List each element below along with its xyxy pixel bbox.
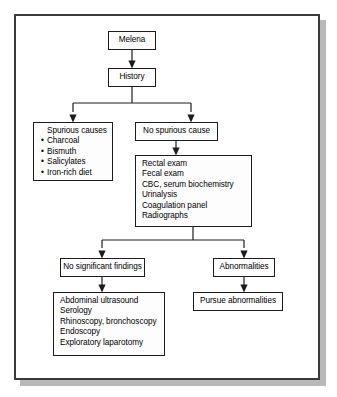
node-diagnostic-workup-item: Fecal exam xyxy=(142,169,246,179)
node-advanced-diagnostics-item: Rhinoscopy, bronchoscopy xyxy=(60,317,159,327)
node-no-spurious-cause-label: No spurious cause xyxy=(143,126,210,136)
node-diagnostic-workup-item: Radiographs xyxy=(142,211,246,221)
node-pursue-abnormalities-label: Pursue abnormalities xyxy=(200,296,276,306)
node-history-label: History xyxy=(119,72,144,82)
node-pursue-abnormalities[interactable]: Pursue abnormalities xyxy=(193,292,283,311)
node-spurious-causes-item: Salicylates xyxy=(40,157,107,167)
node-spurious-causes[interactable]: Spurious causes Charcoal Bismuth Salicyl… xyxy=(33,122,113,181)
node-spurious-causes-item: Charcoal xyxy=(40,136,107,146)
node-advanced-diagnostics-item: Abdominal ultrasound xyxy=(60,296,159,306)
node-advanced-diagnostics-item: Serology xyxy=(60,306,159,316)
node-no-spurious-cause[interactable]: No spurious cause xyxy=(135,122,218,141)
node-diagnostic-workup-item: Urinalysis xyxy=(142,190,246,200)
node-melena-label: Melena xyxy=(119,35,146,45)
diagram-canvas: Melena History Spurious causes Charcoal … xyxy=(0,0,337,397)
node-diagnostic-workup[interactable]: Rectal exam Fecal exam CBC, serum bioche… xyxy=(135,155,252,227)
node-diagnostic-workup-item: Rectal exam xyxy=(142,159,246,169)
node-spurious-causes-item: Iron-rich diet xyxy=(40,168,107,178)
node-advanced-diagnostics[interactable]: Abdominal ultrasound Serology Rhinoscopy… xyxy=(53,292,165,356)
node-spurious-causes-item: Bismuth xyxy=(40,147,107,157)
node-advanced-diagnostics-item: Exploratory laparotomy xyxy=(60,338,159,348)
node-melena[interactable]: Melena xyxy=(108,31,156,50)
node-no-significant-findings-label: No significant findings xyxy=(63,262,142,272)
node-diagnostic-workup-item: Coagulation panel xyxy=(142,201,246,211)
node-abnormalities[interactable]: Abnormalities xyxy=(213,258,275,277)
node-diagnostic-workup-item: CBC, serum biochemistry xyxy=(142,180,246,190)
node-advanced-diagnostics-item: Endoscopy xyxy=(60,327,159,337)
node-abnormalities-label: Abnormalities xyxy=(220,262,269,272)
node-history[interactable]: History xyxy=(108,68,156,87)
node-spurious-causes-heading: Spurious causes xyxy=(40,126,107,136)
node-no-significant-findings[interactable]: No significant findings xyxy=(60,258,145,277)
